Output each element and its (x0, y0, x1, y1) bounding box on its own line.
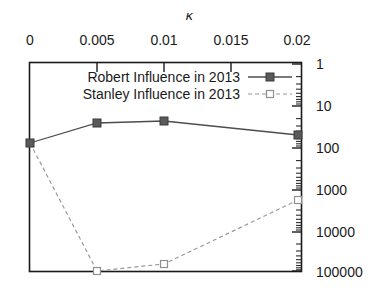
legend-marker-robert (266, 73, 274, 81)
legend-sample-stanley (248, 91, 292, 98)
chart-figure: κ 0 0.005 0.01 0.015 0.02 1 10 100 1000 … (0, 0, 379, 295)
data-point-robert-3 (294, 131, 302, 139)
data-point-stanley-3 (295, 197, 302, 204)
legend-sample-robert (248, 73, 292, 81)
data-point-robert-0 (26, 139, 34, 147)
plot-frame (30, 63, 302, 272)
top-axis-ticks (97, 63, 231, 73)
legend-marker-stanley (267, 91, 274, 98)
data-point-robert-2 (160, 117, 168, 125)
plot-canvas (0, 0, 379, 295)
series-stanley-line (30, 143, 298, 271)
series-stanley (27, 140, 302, 275)
data-point-stanley-1 (94, 268, 101, 275)
series-robert (26, 117, 302, 147)
data-point-stanley-2 (161, 261, 168, 268)
data-point-robert-1 (93, 119, 101, 127)
